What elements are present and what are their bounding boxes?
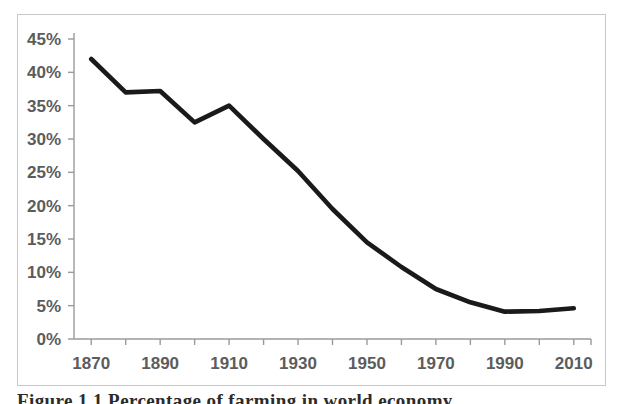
x-tick-label: 1990	[486, 354, 524, 373]
x-axis-tick-marks	[91, 339, 591, 345]
figure-caption: Figure 1.1 Percentage of farming in worl…	[17, 390, 607, 404]
y-axis-tick-marks	[68, 39, 74, 339]
y-tick-label: 5%	[36, 297, 61, 316]
y-tick-label: 10%	[27, 263, 61, 282]
y-tick-label: 25%	[27, 163, 61, 182]
x-tick-label: 1870	[72, 354, 110, 373]
x-tick-label: 1930	[279, 354, 317, 373]
y-tick-label: 35%	[27, 97, 61, 116]
y-tick-label: 40%	[27, 63, 61, 82]
y-axis-tick-labels: 0%5%10%15%20%25%30%35%40%45%	[27, 30, 61, 349]
y-tick-label: 20%	[27, 197, 61, 216]
y-tick-label: 0%	[36, 330, 61, 349]
x-tick-label: 2010	[555, 354, 593, 373]
chart-frame: 0%5%10%15%20%25%30%35%40%45% 18701890191…	[17, 14, 606, 386]
x-tick-label: 1910	[210, 354, 248, 373]
y-tick-label: 30%	[27, 130, 61, 149]
y-tick-label: 15%	[27, 230, 61, 249]
line-chart: 0%5%10%15%20%25%30%35%40%45% 18701890191…	[18, 15, 605, 385]
x-tick-label: 1890	[141, 354, 179, 373]
x-axis-tick-labels: 18701890191019301950197019902010	[72, 354, 592, 373]
x-tick-label: 1950	[348, 354, 386, 373]
data-series-line	[91, 59, 574, 312]
y-tick-label: 45%	[27, 30, 61, 49]
figure-container: 0%5%10%15%20%25%30%35%40%45% 18701890191…	[0, 0, 624, 404]
x-tick-label: 1970	[417, 354, 455, 373]
